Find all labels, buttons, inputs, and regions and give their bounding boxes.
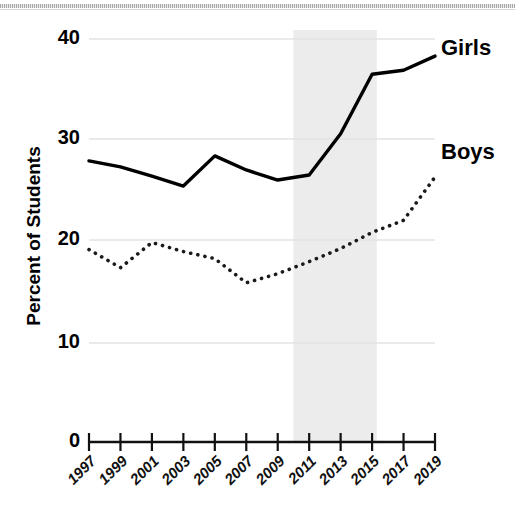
line-chart: 40 30 20 10 0 Percent of Students 199719…: [0, 0, 515, 532]
x-tick-label: 2005: [189, 452, 226, 489]
x-tick-label: 2003: [157, 452, 194, 489]
x-tick-label: 2015: [346, 452, 383, 489]
x-tick-label: 2011: [284, 452, 320, 488]
y-tick-label: 10: [58, 330, 80, 352]
series-label-boys: Boys: [441, 139, 495, 164]
y-axis-tick-labels: 40 30 20 10 0: [58, 26, 80, 451]
y-tick-label: 0: [69, 429, 80, 451]
x-axis-tick-labels: 1997199920012003200520072009201120132015…: [64, 452, 446, 489]
series-label-girls: Girls: [441, 35, 491, 60]
x-tick-label: 1997: [64, 452, 100, 488]
y-tick-label: 40: [58, 26, 80, 48]
x-tick-label: 2009: [252, 452, 289, 489]
x-tick-label: 2013: [314, 452, 351, 489]
y-axis-title: Percent of Students: [23, 146, 44, 325]
x-tick-label: 1999: [95, 452, 131, 488]
y-tick-label: 20: [58, 227, 80, 249]
x-tick-label: 2017: [377, 452, 414, 489]
chart-container: 40 30 20 10 0 Percent of Students 199719…: [0, 0, 515, 532]
y-tick-label: 30: [58, 126, 80, 148]
x-tick-label: 2007: [220, 452, 257, 489]
x-tick-label: 2019: [409, 452, 446, 489]
x-tick-label: 2001: [126, 452, 162, 488]
plot-background: [89, 30, 435, 442]
